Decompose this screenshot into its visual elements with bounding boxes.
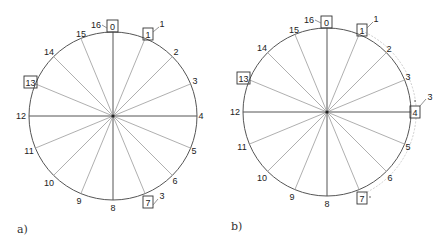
- annotation-1: 1: [373, 14, 378, 24]
- label-0: 0: [324, 18, 329, 28]
- label-15: 15: [76, 29, 86, 39]
- marker-dot: [369, 196, 371, 198]
- label-12: 12: [16, 111, 26, 121]
- label-10: 10: [257, 173, 267, 183]
- label-6: 6: [387, 173, 392, 183]
- annotation-16: 16: [91, 20, 101, 30]
- label-14: 14: [44, 47, 54, 57]
- label-5: 5: [191, 146, 196, 156]
- label-3: 3: [405, 72, 410, 82]
- circle-diagram-a: 0 16 1 1 2 3 4 5 6 7 3 8 9 10 11 12 13 1…: [16, 19, 204, 236]
- annotation-16: 16: [304, 15, 314, 25]
- label-2: 2: [386, 44, 391, 54]
- label-4: 4: [198, 111, 203, 121]
- center-point: [111, 114, 114, 117]
- marker-dot: [414, 100, 416, 102]
- annotation-3: 3: [427, 92, 432, 102]
- label-4: 4: [412, 108, 417, 118]
- label-11: 11: [24, 146, 33, 156]
- label-10: 10: [44, 178, 54, 188]
- label-9: 9: [76, 196, 81, 206]
- label-0: 0: [110, 22, 115, 32]
- label-2: 2: [173, 47, 178, 57]
- label-13: 13: [25, 78, 35, 88]
- center-point: [325, 110, 328, 113]
- circle-diagram-b: 0 16 1 1 2 3 4 3 5 6 7 8 9 10 11 12 13 1…: [230, 14, 433, 233]
- label-1: 1: [359, 26, 364, 36]
- annotation-3: 3: [159, 191, 164, 201]
- label-6: 6: [172, 176, 177, 186]
- annotation-1: 1: [159, 19, 164, 29]
- label-7: 7: [359, 194, 364, 204]
- label-15: 15: [289, 25, 299, 35]
- label-11: 11: [237, 142, 246, 152]
- label-1: 1: [145, 30, 150, 40]
- label-12: 12: [230, 107, 240, 117]
- label-3: 3: [192, 76, 197, 86]
- panel-label-a: a): [17, 223, 28, 236]
- label-9: 9: [289, 192, 294, 202]
- panel-label-b: b): [231, 220, 242, 233]
- label-5: 5: [405, 142, 410, 152]
- label-8: 8: [110, 203, 115, 213]
- label-8: 8: [324, 199, 329, 209]
- label-14: 14: [257, 43, 267, 53]
- label-13: 13: [238, 74, 248, 84]
- label-7: 7: [145, 198, 150, 208]
